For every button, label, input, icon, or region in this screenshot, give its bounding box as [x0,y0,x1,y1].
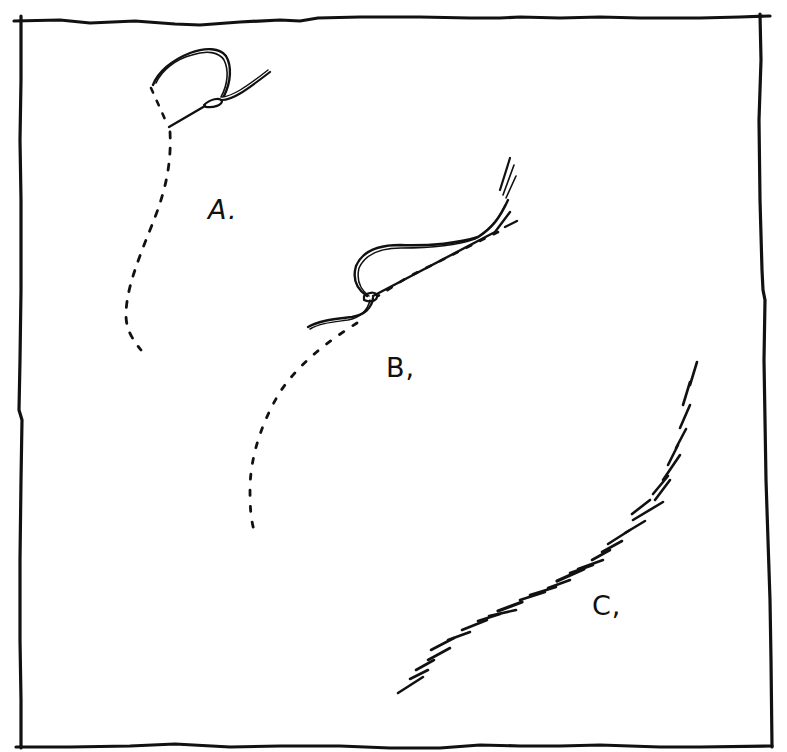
figure-a-drawing [126,49,270,350]
figure-c-drawing [398,362,697,693]
figure-c-label: C, [592,592,621,619]
figure-a-label: A. [208,196,238,223]
figure-b-label: B, [386,354,415,381]
figure-b-drawing [250,158,517,530]
